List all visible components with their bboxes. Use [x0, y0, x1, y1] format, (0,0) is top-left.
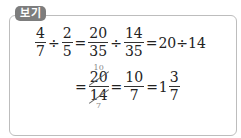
fraction: 14 35	[124, 26, 144, 59]
numerator: 2	[62, 26, 73, 41]
cancelled-fraction: 20 10 14 7	[89, 70, 109, 103]
reduced-denominator: 7	[96, 98, 101, 113]
numerator: 10	[124, 70, 144, 85]
divide-operator: ÷	[110, 35, 122, 51]
equals-sign: =	[111, 79, 123, 95]
numerator: 14	[124, 26, 144, 41]
numerator: 20	[88, 26, 108, 41]
numerator: 3	[169, 70, 180, 85]
equation-line-1: 4 7 ÷ 2 5 = 20 35 ÷ 14 35 = 20÷14	[34, 26, 206, 59]
equals-sign: =	[146, 79, 158, 95]
denominator: 5	[62, 44, 73, 59]
denominator: 35	[124, 44, 144, 59]
fraction: 10 7	[124, 70, 144, 103]
denominator: 35	[88, 44, 108, 59]
fraction: 20 35	[88, 26, 108, 59]
denominator: 7	[169, 88, 180, 103]
divide-operator: ÷	[48, 35, 60, 51]
natural-number-division: 20÷14	[158, 35, 205, 51]
equals-sign: =	[146, 35, 158, 51]
example-label: 보기	[15, 6, 46, 21]
fraction: 4 7	[35, 26, 46, 59]
equals-sign: =	[75, 79, 87, 95]
denominator: 7	[35, 44, 46, 59]
mixed-number-fraction: 3 7	[169, 70, 180, 103]
denominator: 7	[129, 88, 140, 103]
numerator: 20 10	[89, 70, 109, 85]
equation-line-2: = 20 10 14 7 = 10 7 = 1 3 7	[74, 70, 181, 103]
reduced-numerator: 10	[94, 60, 104, 75]
denominator: 14 7	[89, 88, 109, 103]
equals-sign: =	[75, 35, 87, 51]
fraction: 2 5	[62, 26, 73, 59]
mixed-number-whole: 1	[159, 79, 168, 95]
numerator: 4	[35, 26, 46, 41]
